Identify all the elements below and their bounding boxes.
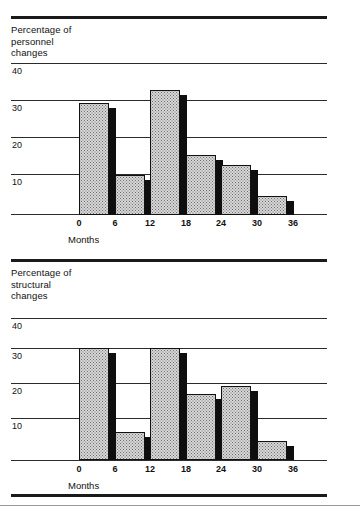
chart1-xtick-6: 6 bbox=[112, 218, 117, 228]
chart1-xtick-18: 18 bbox=[181, 218, 191, 228]
bar-personnel-0 bbox=[79, 103, 109, 215]
chart1-xtick-24: 24 bbox=[216, 218, 226, 228]
chart1-bars bbox=[11, 22, 327, 252]
bar-structural-12 bbox=[150, 348, 180, 460]
bar-structural-18 bbox=[186, 394, 216, 460]
page-edge-hairline bbox=[0, 505, 360, 506]
chart1-xtick-36: 36 bbox=[288, 218, 298, 228]
bar-personnel-30 bbox=[257, 196, 287, 215]
bar-structural-24 bbox=[221, 386, 251, 460]
chart2-bars bbox=[11, 265, 327, 490]
chart1-xtick-12: 12 bbox=[145, 218, 155, 228]
bar2-shadow-30 bbox=[287, 446, 294, 460]
chart2-xtick-12: 12 bbox=[145, 464, 155, 474]
chart2-top-rule bbox=[11, 259, 327, 262]
bar-personnel-12 bbox=[150, 90, 180, 215]
figure-page: Percentage of personnel changes 40 30 20… bbox=[0, 0, 360, 512]
chart2-xtick-18: 18 bbox=[181, 464, 191, 474]
bar-structural-6 bbox=[115, 432, 145, 460]
bar-personnel-24 bbox=[221, 165, 251, 215]
bar-structural-30 bbox=[257, 441, 287, 460]
figure-bottom-rule bbox=[11, 494, 327, 497]
bar-shadow-30 bbox=[287, 201, 294, 215]
chart2-xtick-6: 6 bbox=[112, 464, 117, 474]
chart2-plot-area: 40 30 20 10 bbox=[11, 265, 327, 490]
chart2-xtick-24: 24 bbox=[216, 464, 226, 474]
bar-personnel-6 bbox=[115, 175, 145, 215]
chart2-xtick-0: 0 bbox=[76, 464, 81, 474]
chart1-xlabel: Months bbox=[68, 234, 99, 245]
chart1-xtick-30: 30 bbox=[252, 218, 262, 228]
bar-structural-0 bbox=[79, 348, 109, 460]
chart1-top-rule bbox=[11, 16, 327, 19]
chart2-xlabel: Months bbox=[68, 480, 99, 491]
chart1-plot-area: 40 30 20 10 bbox=[11, 22, 327, 252]
chart1-xtick-0: 0 bbox=[76, 218, 81, 228]
chart2-xtick-30: 30 bbox=[252, 464, 262, 474]
chart2-xtick-36: 36 bbox=[288, 464, 298, 474]
bar-personnel-18 bbox=[186, 155, 216, 215]
